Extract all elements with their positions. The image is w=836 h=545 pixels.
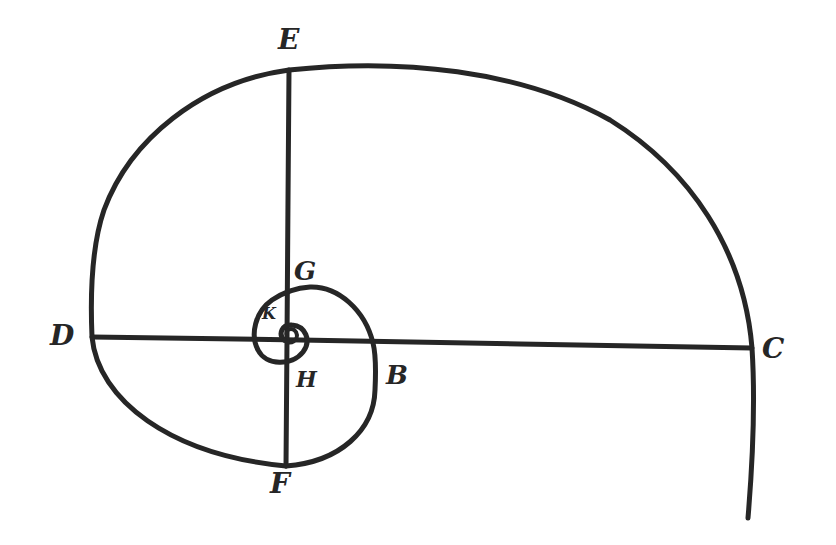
label-f: F: [270, 470, 290, 498]
spiral-diagram: [0, 0, 836, 545]
label-k: K: [262, 306, 276, 322]
line-d-c: [92, 337, 752, 348]
label-h: H: [296, 368, 317, 390]
label-d: D: [50, 322, 74, 350]
label-e: E: [278, 26, 299, 54]
label-b: B: [386, 362, 408, 388]
label-g: G: [294, 258, 316, 284]
spiral-outer-arm: [91, 66, 753, 518]
label-c: C: [762, 335, 784, 363]
line-e-f: [286, 70, 289, 466]
